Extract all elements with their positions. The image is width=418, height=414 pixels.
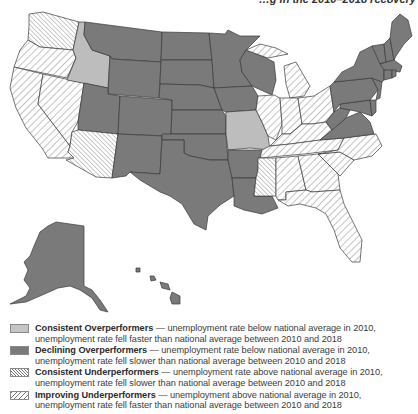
legend: Consistent Overperformers — unemployment…: [10, 323, 415, 412]
state-kansas: [171, 110, 226, 134]
state-florida: [278, 190, 362, 262]
legend-item-improving-underperformers: Improving Underperformers — unemployment…: [10, 390, 415, 411]
legend-title: Consistent Overperformers: [35, 323, 153, 333]
legend-title: Declining Overperformers: [35, 345, 147, 355]
swatch-solid-dark-icon: [10, 346, 29, 355]
legend-item-consistent-underperformers: Consistent Underperformers — unemploymen…: [10, 367, 415, 388]
swatch-solid-light-icon: [10, 324, 29, 333]
state-arizona: [66, 130, 118, 178]
state-wyoming: [108, 56, 161, 98]
legend-item-consistent-overperformers: Consistent Overperformers — unemployment…: [10, 323, 415, 344]
legend-title: Consistent Underperformers: [35, 367, 159, 377]
legend-item-declining-overperformers: Declining Overperformers — unemployment …: [10, 345, 415, 366]
swatch-hatch-forwardslash-icon: [10, 391, 29, 400]
state-colorado: [118, 96, 172, 136]
state-connecticut: [384, 70, 392, 80]
us-state-map: [0, 0, 418, 320]
swatch-hatch-backslash-icon: [10, 368, 29, 377]
state-maine: [390, 14, 412, 60]
state-new-mexico: [112, 134, 162, 178]
state-hawaii: [136, 268, 180, 304]
state-rhode-island: [392, 70, 396, 78]
state-south-dakota: [160, 60, 214, 88]
state-north-dakota: [161, 32, 212, 60]
legend-title: Improving Underperformers: [35, 390, 156, 400]
state-alaska: [10, 222, 108, 312]
